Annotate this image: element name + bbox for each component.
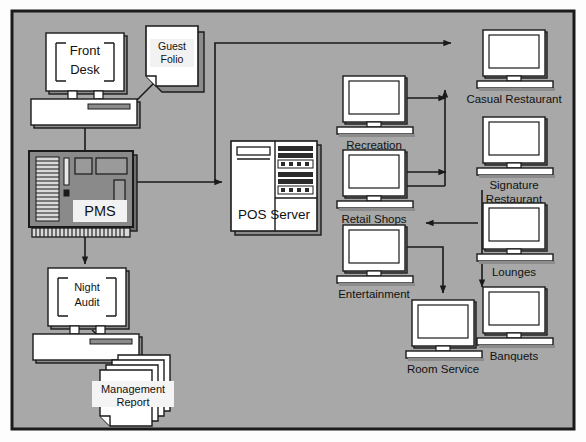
node-guest-folio-label2: Folio: [161, 53, 184, 65]
diagram-canvas: Front Desk Front Desk Guest Folio PMS: [0, 0, 586, 442]
node-entertainment[interactable]: Entertainment: [337, 225, 415, 300]
node-night-audit[interactable]: Night Audit: [33, 268, 142, 363]
node-room-service[interactable]: Room Service: [406, 300, 484, 375]
node-lounges-label: Lounges: [492, 266, 536, 278]
node-banquets-label: Banquets: [490, 350, 539, 362]
node-management-report-label: Management: [101, 383, 165, 395]
node-entertainment-label: Entertainment: [338, 288, 410, 300]
node-pos-server[interactable]: POS Server: [231, 141, 321, 235]
node-front-desk[interactable]: Front Desk Front Desk: [31, 33, 140, 128]
node-casual-restaurant-label: Casual Restaurant: [466, 93, 562, 105]
node-recreation-label: Recreation: [346, 139, 402, 151]
node-pos-server-label: POS Server: [238, 207, 311, 222]
diagram-svg: Front Desk Front Desk Guest Folio PMS: [0, 0, 586, 442]
node-night-audit-label2: Audit: [74, 296, 99, 308]
node-pms-label: PMS: [84, 203, 115, 219]
node-pms[interactable]: PMS: [29, 151, 137, 237]
node-front-desk-label2: Desk: [70, 62, 100, 77]
node-signature-restaurant-label: Signature: [489, 179, 538, 191]
node-retail-shops[interactable]: Retail Shops: [337, 150, 415, 225]
node-room-service-label: Room Service: [407, 363, 479, 375]
node-guest-folio-label: Guest: [158, 40, 186, 52]
node-management-report-label2: Report: [116, 396, 149, 408]
node-front-desk-label: Front: [70, 43, 101, 58]
node-guest-folio[interactable]: Guest Folio: [146, 26, 204, 92]
node-retail-shops-label: Retail Shops: [341, 213, 406, 225]
node-night-audit-label: Night: [74, 281, 100, 293]
